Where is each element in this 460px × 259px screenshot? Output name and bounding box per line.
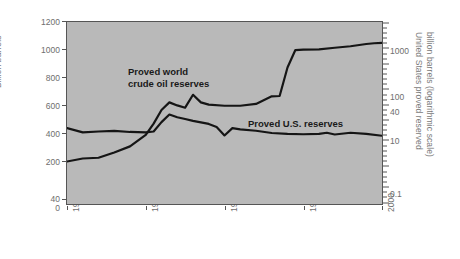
series-line-proved-world-crude-oil-reserves [67,43,382,162]
y-right-tick-1000: 1000 [390,46,409,56]
y-left-tick-800: 800 [26,73,60,83]
y-right-tick-100: 100 [390,92,404,102]
y-axis-left-title: Billion barrels [0,35,3,88]
y-axis-right-tickmarks [383,21,391,206]
x-tickmark-1990 [304,206,305,210]
y-left-tick-200: 200 [26,157,60,167]
x-tickmark-2000 [382,206,383,210]
x-tickmark-1960 [67,206,68,210]
x-tickmark-1980 [225,206,226,210]
y-left-tick-400: 400 [26,129,60,139]
annotation-proved-world-line2: crude oil reserves [128,78,209,90]
x-tickmark-1970 [146,206,147,210]
plot-area [66,21,383,205]
annotation-proved-world: Proved world crude oil reserves [128,66,209,89]
chart-figure: Billion barrels United States proved res… [0,0,460,259]
x-tick-label-2000: 2000 [386,193,396,212]
annotation-proved-us-line1: Proved U.S. reserves [248,118,343,130]
series-canvas [67,22,382,204]
y-left-tick-1200: 1200 [26,17,60,27]
y-left-tick-600: 600 [26,101,60,111]
annotation-proved-us: Proved U.S. reserves [248,118,343,130]
y-axis-right-title-line2: billion barrels (logarithmic scale) [425,32,435,157]
annotation-proved-world-line1: Proved world [128,66,209,78]
y-left-tick-1000: 1000 [26,45,60,55]
y-left-tick-0: 0 [26,203,60,213]
y-right-tick-40: 40 [390,107,399,117]
y-right-tick-10: 10 [390,136,399,146]
y-axis-right-title-line1: United States proved reserved [414,32,424,150]
